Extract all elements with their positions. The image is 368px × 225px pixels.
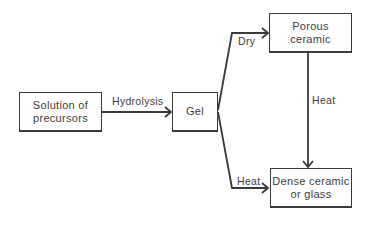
node-label: Gel <box>186 105 204 118</box>
edge-label-heat-porous-dense: Heat <box>312 94 335 106</box>
node-dense-ceramic-or-glass: Dense ceramic or glass <box>270 168 352 208</box>
node-solution-of-precursors: Solution of precursors <box>19 92 102 132</box>
edge-label-heat-gel-dense: Heat <box>237 175 260 187</box>
node-label-line2: or glass <box>272 188 349 201</box>
edge-label-dry: Dry <box>238 35 255 47</box>
edge-label-hydrolysis: Hydrolysis <box>112 95 163 107</box>
node-label-line1: Solution of <box>33 99 88 112</box>
node-porous-ceramic: Porous ceramic <box>269 13 352 53</box>
node-label-line1: Porous <box>290 20 331 33</box>
node-gel: Gel <box>172 92 218 132</box>
node-label-line2: precursors <box>33 112 88 125</box>
node-label-line2: ceramic <box>290 33 331 46</box>
node-label-line1: Dense ceramic <box>272 175 349 188</box>
